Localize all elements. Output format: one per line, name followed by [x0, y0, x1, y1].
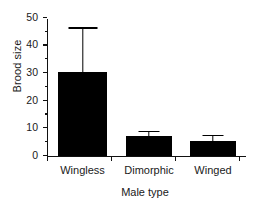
x-tick-1 [111, 157, 112, 161]
bar-wingless [58, 72, 107, 156]
bar-dimorphic [126, 136, 172, 156]
error-bar-stem-wingless [82, 29, 83, 73]
bar-winged [190, 141, 236, 156]
x-axis-title: Male type [44, 186, 246, 198]
x-tick-label-wingless: Wingless [60, 164, 105, 176]
y-axis-title: Brood size [11, 16, 23, 116]
y-tick-10: 10 [43, 127, 47, 128]
x-tick-label-dimorphic: Dimorphic [124, 164, 174, 176]
bar-chart-figure: Brood size 0 10 20 30 40 50 [0, 0, 256, 208]
y-tick-20: 20 [43, 100, 47, 101]
y-tick-label-30: 30 [26, 67, 38, 78]
error-bar-cap-dimorphic [139, 131, 160, 132]
x-tick-right [239, 157, 240, 161]
y-tick-50: 50 [43, 17, 47, 18]
y-tick-minor-35 [45, 58, 48, 59]
y-tick-label-0: 0 [32, 150, 38, 161]
x-tick-label-winged: Winged [194, 164, 231, 176]
y-tick-minor-45 [45, 31, 48, 32]
x-tick-2 [175, 157, 176, 161]
error-bar-cap-wingless [68, 27, 97, 28]
y-tick-minor-5 [45, 141, 48, 142]
y-tick-label-50: 50 [26, 12, 38, 23]
y-tick-minor-25 [45, 86, 48, 87]
error-bar-stem-winged [212, 136, 213, 141]
y-tick-label-10: 10 [26, 122, 38, 133]
y-tick-label-40: 40 [26, 39, 38, 50]
y-tick-label-20: 20 [26, 94, 38, 105]
error-bar-cap-winged [203, 135, 224, 136]
plot-area: 0 10 20 30 40 50 [47, 19, 246, 157]
error-bar-stem-dimorphic [148, 132, 149, 136]
x-tick-left [47, 157, 48, 161]
y-tick-0: 0 [43, 155, 47, 156]
y-tick-minor-15 [45, 113, 48, 114]
y-tick-40: 40 [43, 44, 47, 45]
y-tick-30: 30 [43, 72, 47, 73]
y-axis-line [47, 19, 48, 158]
